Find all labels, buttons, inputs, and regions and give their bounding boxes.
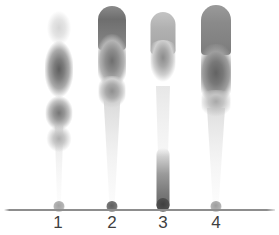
chromatography-plate: 1 2 3 4 bbox=[0, 0, 279, 235]
lane-label-3: 3 bbox=[143, 213, 183, 233]
lane-label-4: 4 bbox=[196, 213, 236, 233]
lane-label-2: 2 bbox=[92, 213, 132, 233]
lane-2 bbox=[98, 0, 126, 211]
band-4c bbox=[202, 90, 231, 122]
lane-1 bbox=[45, 0, 73, 211]
lane-label-1: 1 bbox=[38, 213, 78, 233]
band-2c bbox=[99, 76, 126, 112]
band-1b bbox=[45, 36, 73, 100]
lane-3 bbox=[150, 0, 176, 211]
lane-4 bbox=[201, 0, 231, 211]
band-1d bbox=[46, 124, 72, 156]
origin-baseline bbox=[4, 209, 275, 211]
band-3b bbox=[151, 40, 176, 92]
